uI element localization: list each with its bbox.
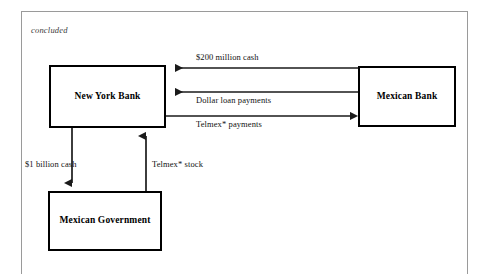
node-new-york-bank: New York Bank: [49, 65, 166, 128]
edge-label-telmex-payments: Telmex* payments: [196, 119, 262, 129]
node-label: Mexican Government: [59, 215, 150, 226]
node-label: New York Bank: [75, 91, 141, 102]
node-mexican-bank: Mexican Bank: [358, 66, 456, 127]
diagram-page: concluded New York Ban: [0, 0, 487, 274]
node-label: Mexican Bank: [377, 91, 438, 102]
edge-label-cash-1-billion: $1 billion cash: [25, 159, 77, 169]
edge-label-telmex-stock: Telmex* stock: [152, 159, 203, 169]
node-mexican-government: Mexican Government: [48, 191, 162, 251]
edge-label-dollar-loan-payments: Dollar loan payments: [196, 95, 271, 105]
edge-label-cash-200-million: $200 million cash: [196, 52, 259, 62]
